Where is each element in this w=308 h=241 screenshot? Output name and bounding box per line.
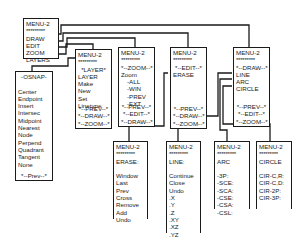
zoom-item[interactable]: -ALL <box>121 78 152 85</box>
prev-button[interactable]: *--PREV--* <box>121 103 152 110</box>
menu-separator: ********* <box>169 150 198 157</box>
connector-edit <box>58 33 188 47</box>
menu-title: MENU-2 <box>116 143 145 150</box>
prev-button[interactable]: *--PREV--* <box>78 105 109 112</box>
osnap-item[interactable]: Nearest <box>18 124 50 131</box>
menu-item-layers[interactable]: LAYERS <box>26 56 56 63</box>
menu-title: MENU-2 <box>236 49 267 56</box>
spacer <box>169 165 198 172</box>
erase-item[interactable]: Add <box>116 209 145 216</box>
circle-item[interactable]: CIR-C,D: <box>259 179 289 186</box>
menu-title: MENU-2 <box>169 143 198 150</box>
draw-button[interactable]: *--DRAW--* <box>173 112 204 119</box>
zoom-item[interactable]: -PREV <box>121 93 152 100</box>
arc-item[interactable]: -CSA: <box>217 201 247 208</box>
edit-button[interactable]: *--EDIT--* <box>236 110 267 117</box>
osnap-item[interactable]: Intersec <box>18 109 50 116</box>
erase-item[interactable]: Prev <box>116 187 145 194</box>
arc-item[interactable]: -CSL: <box>217 209 247 216</box>
menu-title: MENU-2 <box>259 143 289 150</box>
menu-separator: ********* <box>78 58 109 65</box>
draw-item-circle[interactable]: CIRCLE <box>236 85 267 92</box>
zoom-item[interactable]: -WIN <box>121 85 152 92</box>
menu-item-edit[interactable]: EDIT <box>26 42 56 49</box>
zoom-menu: MENU-2 ********* *--ZOOM--* Zoom -ALL -W… <box>118 47 155 127</box>
menu-title: -OSNAP- <box>18 73 50 80</box>
spacer <box>217 165 247 172</box>
erase-item[interactable]: Undo <box>116 216 145 223</box>
menu-header: *--DRAW--* <box>236 64 267 71</box>
layer-item[interactable]: Set <box>78 95 109 102</box>
draw-item-arc[interactable]: ARC <box>236 78 267 85</box>
osnap-item[interactable]: Perpend <box>18 139 50 146</box>
root-menu: MENU-2 ********* DRAW EDIT ZOOM LAYERS <box>23 18 59 59</box>
menu-item-draw[interactable]: DRAW <box>26 35 56 42</box>
menu-title: MENU-2 <box>173 49 204 56</box>
layer-item[interactable]: Make <box>78 80 109 87</box>
menu-separator: ********* <box>236 56 267 63</box>
erase-item[interactable]: Remove <box>116 201 145 208</box>
osnap-item[interactable]: None <box>18 161 50 168</box>
menu-separator: ********* <box>217 150 247 157</box>
osnap-item[interactable]: Insert <box>18 102 50 109</box>
edit-button[interactable]: *--EDIT--* <box>121 110 152 117</box>
erase-item[interactable]: Window <box>116 172 145 179</box>
erase-menu: MENU-2 ********* ERASE: Window Last Prev… <box>113 141 148 219</box>
menu-header: LINE: <box>169 158 198 165</box>
line-item[interactable]: .YZ <box>169 231 198 238</box>
circle-item[interactable]: CIR-3P: <box>259 194 289 201</box>
arc-item[interactable]: -SCA: <box>217 187 247 194</box>
menu-item-zoom[interactable]: ZOOM <box>26 49 56 56</box>
menu-header: *--ZOOM--* <box>121 64 152 71</box>
layer-item[interactable]: New <box>78 87 109 94</box>
osnap-item[interactable]: Node <box>18 131 50 138</box>
connector-zoom <box>58 38 135 47</box>
osnap-item[interactable]: Midpoint <box>18 117 50 124</box>
line-item[interactable]: .Y <box>169 201 198 208</box>
spacer <box>116 165 145 172</box>
menu-header: CIRCLE <box>259 158 289 165</box>
zoom-item[interactable]: Zoom <box>121 71 152 78</box>
edit-menu: MENU-2 ********* *--EDIT--* ERASE *--PRE… <box>170 47 207 129</box>
edit-item-erase[interactable]: ERASE <box>173 71 204 78</box>
erase-item[interactable]: Last <box>116 179 145 186</box>
prev-button[interactable]: *--PREV--* <box>173 105 204 112</box>
osnap-item[interactable]: Endpoint <box>18 95 50 102</box>
line-item[interactable]: .Z <box>169 209 198 216</box>
menu-header: ERASE: <box>116 158 145 165</box>
menu-separator: ********* <box>259 150 289 157</box>
menu-separator: ********* <box>173 56 204 63</box>
arc-menu: MENU-2 ********* ARC -3P: -SCE: -SCA: -C… <box>214 141 250 209</box>
arc-item[interactable]: -SCE: <box>217 179 247 186</box>
spacer <box>259 165 289 172</box>
prev-button[interactable]: *--Prev--* <box>18 172 50 179</box>
draw-item-line[interactable]: LINE <box>236 71 267 78</box>
line-item[interactable]: Close <box>169 179 198 186</box>
line-item[interactable]: Undo <box>169 187 198 194</box>
zoom-button[interactable]: *--ZOOM--* <box>78 120 109 127</box>
zoom-button[interactable]: *--ZOOM--* <box>236 118 267 125</box>
circle-item[interactable]: CIR-2P: <box>259 187 289 194</box>
line-item[interactable]: .XY <box>169 216 198 223</box>
draw-button[interactable]: *--DRAW--* <box>78 112 109 119</box>
osnap-item[interactable]: Quadrant <box>18 146 50 153</box>
osnap-item[interactable]: Tangent <box>18 153 50 160</box>
circle-item[interactable]: CIR-C,R: <box>259 172 289 179</box>
osnap-item[interactable]: Center <box>18 88 50 95</box>
line-item[interactable]: .XZ <box>169 223 198 230</box>
erase-item[interactable]: Cross <box>116 194 145 201</box>
zoom-button[interactable]: *--ZOOM--* <box>173 120 204 127</box>
menu-header: *LAYER* <box>78 66 109 73</box>
line-menu: MENU-2 ********* LINE: Continue Close Un… <box>166 141 201 233</box>
prev-button[interactable]: *--PREV--* <box>236 103 267 110</box>
line-item[interactable]: .X <box>169 194 198 201</box>
menu-title: MENU-2 <box>217 143 247 150</box>
circle-menu: MENU-2 ********* CIRCLE CIR-C,R: CIR-C,D… <box>256 141 292 209</box>
draw-button[interactable]: *--DRAW--* <box>121 118 152 125</box>
arc-item[interactable]: -3P: <box>217 172 247 179</box>
connector-arc <box>220 79 232 141</box>
layer-item[interactable]: LAYER <box>78 73 109 80</box>
arc-item[interactable]: -CSE: <box>217 194 247 201</box>
menu-title: MENU-2 <box>26 20 56 27</box>
line-item[interactable]: Continue <box>169 172 198 179</box>
